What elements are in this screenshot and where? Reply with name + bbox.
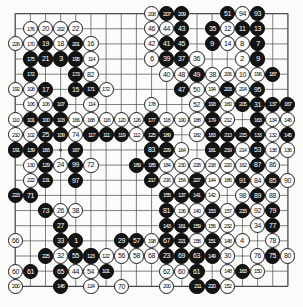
stone-w-78[interactable]: 78 — [265, 233, 280, 248]
stone-w-44[interactable]: 44 — [159, 21, 174, 36]
stone-b-29[interactable]: 29 — [114, 233, 129, 248]
stone-b-73[interactable]: 73 — [38, 203, 53, 218]
stone-w-102[interactable]: 102 — [23, 127, 38, 142]
stone-w-114[interactable]: 114 — [83, 51, 98, 66]
stone-w-200[interactable]: 200 — [8, 279, 23, 294]
stone-w-198[interactable]: 198 — [144, 233, 159, 248]
stone-b-171[interactable]: 171 — [83, 82, 98, 97]
stone-w-24[interactable]: 24 — [53, 158, 68, 173]
stone-b-119[interactable]: 119 — [114, 127, 129, 142]
stone-w-130[interactable]: 130 — [23, 158, 38, 173]
stone-b-217[interactable]: 217 — [144, 173, 159, 188]
stone-w-72[interactable]: 72 — [83, 158, 98, 173]
stone-b-39[interactable]: 39 — [159, 51, 174, 66]
stone-w-232[interactable]: 232 — [220, 218, 235, 233]
stone-b-31[interactable]: 31 — [250, 97, 265, 112]
stone-b-67[interactable]: 67 — [159, 233, 174, 248]
stone-b-151[interactable]: 151 — [205, 233, 220, 248]
stone-b-227[interactable]: 227 — [189, 173, 204, 188]
stone-b-161[interactable]: 161 — [174, 218, 189, 233]
stone-b-11[interactable]: 11 — [235, 21, 250, 36]
stone-b-175[interactable]: 175 — [23, 51, 38, 66]
stone-w-122[interactable]: 122 — [99, 248, 114, 263]
stone-w-2[interactable]: 2 — [235, 51, 250, 66]
stone-w-148[interactable]: 148 — [220, 264, 235, 279]
stone-b-191[interactable]: 191 — [8, 142, 23, 157]
stone-b-15[interactable]: 15 — [68, 82, 83, 97]
stone-b-103[interactable]: 103 — [53, 112, 68, 127]
stone-b-91[interactable]: 91 — [235, 173, 250, 188]
stone-b-17[interactable]: 17 — [38, 82, 53, 97]
stone-w-54[interactable]: 54 — [83, 264, 98, 279]
stone-b-101[interactable]: 101 — [23, 112, 38, 127]
stone-b-155[interactable]: 155 — [159, 188, 174, 203]
stone-w-50[interactable]: 50 — [189, 82, 204, 97]
stone-w-138[interactable]: 138 — [265, 142, 280, 157]
stone-w-176[interactable]: 176 — [23, 21, 38, 36]
stone-w-38[interactable]: 38 — [205, 67, 220, 82]
stone-b-153[interactable]: 153 — [205, 203, 220, 218]
stone-b-173[interactable]: 173 — [68, 67, 83, 82]
stone-w-162[interactable]: 162 — [235, 158, 250, 173]
stone-w-118[interactable]: 118 — [159, 112, 174, 127]
stone-b-9[interactable]: 9 — [205, 36, 220, 51]
stone-w-20[interactable]: 20 — [38, 21, 53, 36]
stone-w-124[interactable]: 124 — [83, 279, 98, 294]
stone-w-218[interactable]: 218 — [205, 158, 220, 173]
stone-b-99[interactable]: 99 — [68, 158, 83, 173]
stone-b-131[interactable]: 131 — [38, 173, 53, 188]
stone-w-88[interactable]: 88 — [265, 188, 280, 203]
stone-w-12[interactable]: 12 — [220, 21, 235, 36]
stone-w-157[interactable]: 157 — [220, 203, 235, 218]
stone-w-86[interactable]: 86 — [265, 158, 280, 173]
stone-w-182[interactable]: 182 — [189, 127, 204, 142]
stone-w-26[interactable]: 26 — [53, 203, 68, 218]
stone-b-95[interactable]: 95 — [250, 82, 265, 97]
stone-b-57[interactable]: 57 — [129, 233, 144, 248]
stone-b-139[interactable]: 139 — [23, 142, 38, 157]
stone-w-158[interactable]: 158 — [189, 233, 204, 248]
stone-b-172[interactable]: 172 — [23, 67, 38, 82]
stone-b-169[interactable]: 169 — [129, 158, 144, 173]
stone-b-23[interactable]: 23 — [159, 248, 174, 263]
stone-b-69[interactable]: 69 — [174, 248, 189, 263]
stone-w-190[interactable]: 190 — [174, 112, 189, 127]
stone-b-137[interactable]: 137 — [174, 188, 189, 203]
stone-w-106[interactable]: 106 — [38, 97, 53, 112]
stone-w-22[interactable]: 22 — [68, 21, 83, 36]
stone-w-18[interactable]: 18 — [53, 36, 68, 51]
stone-b-167[interactable]: 167 — [280, 97, 295, 112]
stone-w-114[interactable]: 114 — [83, 97, 98, 112]
stone-w-228[interactable]: 228 — [189, 158, 204, 173]
stone-b-209[interactable]: 209 — [174, 6, 189, 21]
stone-b-83[interactable]: 83 — [144, 142, 159, 157]
stone-b-7[interactable]: 7 — [250, 36, 265, 51]
stone-w-36[interactable]: 36 — [189, 51, 204, 66]
stone-w-144[interactable]: 144 — [205, 173, 220, 188]
stone-b-146[interactable]: 146 — [53, 279, 68, 294]
stone-w-164[interactable]: 164 — [174, 142, 189, 157]
stone-b-123[interactable]: 123 — [83, 248, 98, 263]
stone-w-192[interactable]: 192 — [8, 82, 23, 97]
stone-w-30[interactable]: 30 — [220, 248, 235, 263]
stone-b-87[interactable]: 87 — [250, 158, 265, 173]
stone-b-107[interactable]: 107 — [53, 97, 68, 112]
stone-w-116[interactable]: 116 — [99, 112, 114, 127]
stone-b-221[interactable]: 221 — [174, 233, 189, 248]
stone-b-181[interactable]: 181 — [205, 142, 220, 157]
stone-b-183[interactable]: 183 — [205, 127, 220, 142]
stone-w-186[interactable]: 186 — [220, 173, 235, 188]
stone-b-43[interactable]: 43 — [174, 21, 189, 36]
stone-b-125[interactable]: 125 — [144, 127, 159, 142]
stone-b-205[interactable]: 205 — [235, 97, 250, 112]
stone-w-172[interactable]: 172 — [99, 82, 114, 97]
stone-b-225[interactable]: 225 — [38, 248, 53, 263]
stone-w-52[interactable]: 52 — [189, 97, 204, 112]
stone-b-211[interactable]: 211 — [189, 279, 204, 294]
stone-w-214[interactable]: 214 — [235, 142, 250, 157]
stone-b-220[interactable]: 220 — [205, 279, 220, 294]
stone-b-77[interactable]: 77 — [265, 218, 280, 233]
stone-b-185[interactable]: 185 — [144, 158, 159, 173]
stone-b-159[interactable]: 159 — [189, 218, 204, 233]
stone-b-89[interactable]: 89 — [250, 188, 265, 203]
